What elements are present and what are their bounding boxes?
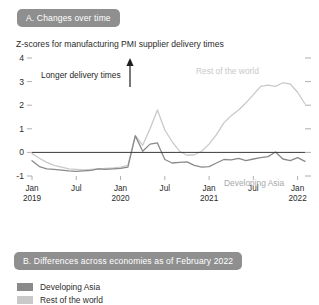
y-tick-label: 0 [19,147,24,157]
right-axis-ticks [305,58,311,176]
panel-b-badge-wrapper: B. Differences across economies as of Fe… [14,250,242,270]
legend-label-rest-of-the-world: Rest of the world [40,295,103,305]
series-label-developing-asia: Developing Asia [224,178,284,188]
x-tick-label-month: Jan [202,184,216,193]
y-tick-label: 4 [19,53,24,63]
legend-swatch-icon [17,296,33,304]
y-tick-label: 3 [19,77,24,87]
panel-a-badge: A. Changes over time [17,9,120,27]
legend-item-developing-asia: Developing Asia [17,281,103,292]
series-label-rest-of-the-world: Rest of the world [196,66,259,76]
line-chart-svg: 43210-1 Jan2019JulJan2020JulJan2021JulJa… [0,52,319,212]
y-tick-label: 2 [19,100,24,110]
y-tick-label: 1 [19,124,24,134]
legend-item-rest-of-the-world: Rest of the world [17,294,103,305]
legend-swatch-icon [17,283,33,291]
chart-panel-a: 43210-1 Jan2019JulJan2020JulJan2021JulJa… [0,52,319,212]
x-tick-label-month: Jan [291,184,305,193]
x-tick-label-month: Jul [160,184,171,193]
series-line-developing-asia [32,136,305,171]
panel-b-badge: B. Differences across economies as of Fe… [14,252,242,270]
x-tick-label-year: 2019 [23,194,42,203]
up-arrow-icon [126,58,133,87]
x-tick-label-year: 2020 [111,194,130,203]
series-layer [32,83,305,172]
x-tick-label-year: 2022 [289,194,308,203]
chart-subtitle: Z-scores for manufacturing PMI supplier … [16,39,224,49]
annotation-longer-delivery-times: Longer delivery times [41,70,121,80]
panel-b-legend: Developing Asia Rest of the world [17,281,103,305]
legend-label-developing-asia: Developing Asia [40,282,100,292]
panel-a-badge-wrapper: A. Changes over time [17,7,120,27]
y-axis-ticks: 43210-1 [16,53,32,181]
x-tick-label-month: Jul [71,184,82,193]
y-tick-label: -1 [16,171,24,181]
x-tick-label-month: Jan [25,184,39,193]
x-tick-label-year: 2021 [200,194,219,203]
x-tick-label-month: Jan [114,184,128,193]
